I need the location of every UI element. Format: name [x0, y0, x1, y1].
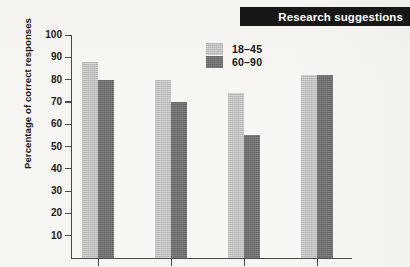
y-axis-tick-label: 90 [36, 52, 62, 62]
y-axis-tick [65, 191, 71, 192]
y-axis-tick-label: 80 [36, 75, 62, 85]
title-banner: Research suggestions [240, 7, 410, 26]
legend-swatch-icon-60-90 [206, 56, 223, 68]
y-axis-tick [65, 168, 71, 169]
x-axis-tick-2 [171, 259, 172, 266]
bar-18-45-3 [228, 93, 244, 258]
bar-chart: Percentage of correct responses 10090807… [0, 0, 410, 267]
y-axis-tick [65, 124, 71, 125]
bar-18-45-4 [301, 75, 317, 258]
bar-60-90-4 [317, 75, 333, 258]
y-axis-tick [65, 235, 71, 236]
y-axis-tick-label: 50 [36, 142, 62, 152]
x-axis-tick-1 [98, 259, 99, 266]
chart-legend: 18–45 60–90 [206, 42, 262, 68]
x-axis-tick-3 [244, 259, 245, 266]
y-axis-tick-label: 70 [36, 97, 62, 107]
y-axis-tick-label: 60 [36, 119, 62, 129]
bar-60-90-3 [244, 135, 260, 258]
legend-item-18-45: 18–45 [206, 42, 262, 55]
y-axis-tick-label: 30 [36, 186, 62, 196]
y-axis-tick-label: 40 [36, 164, 62, 174]
bar-18-45-1 [82, 62, 98, 258]
y-axis-title: Percentage of correct responses [22, 14, 33, 174]
legend-swatch-icon-18-45 [206, 43, 223, 55]
bar-18-45-2 [155, 80, 171, 258]
page-title: Research suggestions [278, 11, 403, 23]
legend-label-60-90: 60–90 [232, 56, 262, 68]
y-axis-tick [65, 101, 71, 102]
y-axis-tick-label: 20 [36, 208, 62, 218]
y-axis-tick-label: 100 [36, 30, 62, 40]
y-axis-tick [65, 57, 71, 58]
legend-item-60-90: 60–90 [206, 55, 262, 68]
y-axis-line [71, 35, 72, 259]
y-axis-tick [65, 79, 71, 80]
x-axis-tick-4 [317, 259, 318, 266]
legend-label-18-45: 18–45 [232, 43, 262, 55]
y-axis-tick [65, 213, 71, 214]
y-axis-tick [65, 146, 71, 147]
bar-60-90-1 [98, 80, 114, 258]
bar-60-90-2 [171, 102, 187, 258]
y-axis-tick [65, 35, 71, 36]
y-axis-tick-label: 10 [36, 231, 62, 241]
x-axis-line [71, 258, 352, 259]
